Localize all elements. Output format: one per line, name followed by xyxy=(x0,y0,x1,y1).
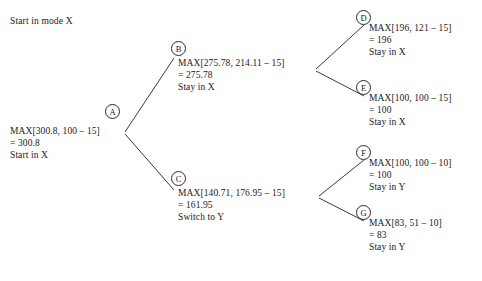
node-text-e: MAX[100, 100 – 15]= 100Stay in X xyxy=(369,92,452,128)
node-f-line-0: MAX[100, 100 – 10] xyxy=(369,157,452,169)
node-d-line-2: Stay in X xyxy=(369,46,452,58)
node-text-b: MAX[275.78, 214.11 – 15]= 275.78Stay in … xyxy=(178,57,285,93)
node-e-line-0: MAX[100, 100 – 15] xyxy=(369,92,452,104)
node-g-line-2: Stay in Y xyxy=(369,241,442,253)
node-g-line-0: MAX[83, 51 – 10] xyxy=(369,217,442,229)
node-badge-c: C xyxy=(171,171,186,186)
edge-a-to-c xyxy=(125,134,174,190)
node-c-line-1: = 161.95 xyxy=(178,199,285,211)
node-badge-a: A xyxy=(105,104,120,119)
node-a-line-1: = 300.8 xyxy=(10,137,100,149)
node-d-line-1: = 196 xyxy=(369,34,452,46)
node-text-f: MAX[100, 100 – 10]= 100Stay in Y xyxy=(369,157,452,193)
node-c-line-0: MAX[140.71, 176.95 – 15] xyxy=(178,187,285,199)
node-f-line-1: = 100 xyxy=(369,169,452,181)
node-b-line-2: Stay in X xyxy=(178,81,285,93)
edge-c-to-f xyxy=(319,160,364,196)
tree-diagram-canvas: Start in mode X AMAX[300.8, 100 – 15]= 3… xyxy=(0,0,482,281)
edge-b-to-d xyxy=(316,25,364,69)
node-text-g: MAX[83, 51 – 10]= 83Stay in Y xyxy=(369,217,442,253)
node-d-line-0: MAX[196, 121 – 15] xyxy=(369,22,452,34)
node-text-a: MAX[300.8, 100 – 15]= 300.8Start in X xyxy=(10,125,100,161)
edge-a-to-b xyxy=(125,58,174,132)
node-text-c: MAX[140.71, 176.95 – 15]= 161.95Switch t… xyxy=(178,187,285,223)
node-g-line-1: = 83 xyxy=(369,229,442,241)
node-a-line-2: Start in X xyxy=(10,149,100,161)
node-a-line-0: MAX[300.8, 100 – 15] xyxy=(10,125,100,137)
node-b-line-1: = 275.78 xyxy=(178,69,285,81)
start-mode-caption: Start in mode X xyxy=(10,16,73,27)
node-text-d: MAX[196, 121 – 15]= 196Stay in X xyxy=(369,22,452,58)
node-e-line-1: = 100 xyxy=(369,104,452,116)
node-c-line-2: Switch to Y xyxy=(178,211,285,223)
node-b-line-0: MAX[275.78, 214.11 – 15] xyxy=(178,57,285,69)
node-e-line-2: Stay in X xyxy=(369,116,452,128)
node-badge-b: B xyxy=(171,41,186,56)
node-f-line-2: Stay in Y xyxy=(369,181,452,193)
